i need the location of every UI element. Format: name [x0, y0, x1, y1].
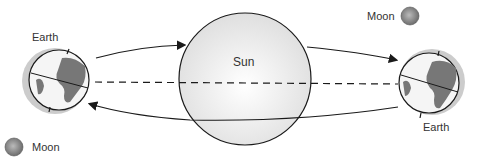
earth-right	[399, 49, 465, 118]
earth-right-label: Earth	[423, 121, 449, 133]
moon-bottom	[5, 138, 23, 156]
sun	[179, 13, 311, 145]
orbit-diagram: Sun Earth Earth Moon Moon	[0, 0, 487, 164]
earth-left-label: Earth	[32, 31, 58, 43]
moon-bottom-label: Moon	[32, 141, 60, 153]
diagram-canvas	[0, 0, 487, 164]
orbit-arrow-top-left	[96, 45, 184, 58]
moon-top-label: Moon	[367, 10, 395, 22]
earth-left	[22, 48, 89, 114]
orbit-arrow-top-right	[307, 47, 396, 60]
moon-top	[401, 7, 419, 25]
sun-label: Sun	[233, 55, 254, 69]
